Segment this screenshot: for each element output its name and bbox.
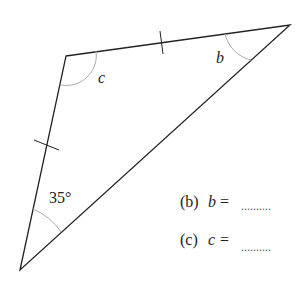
question-var-b: b	[208, 193, 216, 211]
answer-blank-c[interactable]: ..........	[241, 240, 271, 255]
question-var-c: c	[208, 231, 215, 249]
answer-blank-b[interactable]: ..........	[241, 199, 271, 214]
triangle-diagram: c b 35° (b) b = .......... (c) c = .....…	[0, 0, 303, 284]
angle-label-35: 35°	[49, 189, 71, 207]
question-eq-b: =	[220, 193, 229, 211]
angle-label-c: c	[98, 69, 105, 87]
question-part-b: (b)	[180, 193, 199, 211]
angle-arc-35	[33, 209, 61, 232]
triangle-outline	[20, 25, 290, 270]
question-part-c: (c)	[180, 231, 198, 249]
question-eq-c: =	[220, 231, 229, 249]
angle-label-b: b	[216, 49, 224, 67]
angle-arc-b	[225, 34, 251, 60]
